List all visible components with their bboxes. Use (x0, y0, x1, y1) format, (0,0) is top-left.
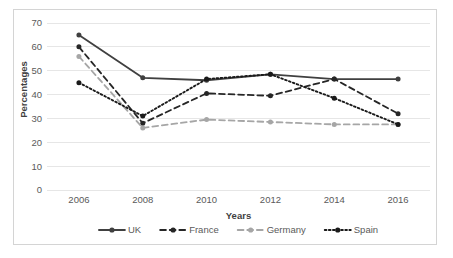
data-point (204, 91, 209, 96)
y-tick-label: 0 (37, 184, 42, 195)
series-uk (76, 32, 400, 82)
data-point (204, 77, 209, 82)
data-point (396, 122, 401, 127)
y-tick-label: 10 (31, 161, 42, 172)
x-tick-label: 2006 (68, 194, 89, 205)
data-point (268, 93, 273, 98)
x-tick-label: 2016 (388, 194, 409, 205)
data-point (268, 72, 273, 77)
legend-item-spain[interactable]: Spain (325, 224, 378, 235)
x-axis-tick-labels: 200620082010201220142016 (68, 194, 408, 205)
y-tick-label: 40 (31, 89, 42, 100)
series-line (79, 74, 398, 124)
x-tick-label: 2008 (132, 194, 153, 205)
y-tick-label: 60 (31, 41, 42, 52)
data-point (332, 77, 337, 82)
x-axis-title: Years (226, 210, 251, 221)
chart-legend: UKFranceGermanySpain (99, 224, 378, 235)
chart-figure: 010203040506070 200620082010201220142016… (0, 0, 453, 258)
legend-marker (109, 227, 114, 232)
x-tick-label: 2012 (260, 194, 281, 205)
data-point (204, 117, 209, 122)
series-line (79, 35, 398, 80)
data-point (396, 111, 401, 116)
series-france (76, 44, 400, 125)
line-chart: 010203040506070 200620082010201220142016… (0, 0, 453, 258)
legend-marker (248, 227, 253, 232)
y-tick-label: 20 (31, 137, 42, 148)
y-tick-label: 50 (31, 65, 42, 76)
x-tick-label: 2010 (196, 194, 217, 205)
legend-label: Germany (267, 224, 306, 235)
legend-marker (335, 227, 340, 232)
y-tick-label: 70 (31, 17, 42, 28)
data-point (140, 125, 145, 130)
legend-marker (171, 227, 176, 232)
data-point (140, 75, 145, 80)
data-point (76, 54, 81, 59)
legend-item-germany[interactable]: Germany (238, 224, 306, 235)
legend-item-france[interactable]: France (160, 224, 219, 235)
legend-item-uk[interactable]: UK (99, 224, 142, 235)
data-point (332, 122, 337, 127)
data-point (396, 77, 401, 82)
gridlines (47, 23, 430, 190)
series-line (79, 47, 398, 123)
data-point (76, 44, 81, 49)
x-tick-label: 2014 (324, 194, 345, 205)
y-tick-label: 30 (31, 113, 42, 124)
data-point (268, 120, 273, 125)
legend-label: France (189, 224, 219, 235)
data-point (76, 80, 81, 85)
data-point (332, 96, 337, 101)
data-point (140, 114, 145, 119)
data-point (76, 32, 81, 37)
y-axis-tick-labels: 010203040506070 (31, 17, 42, 195)
y-axis-title: Percentages (18, 61, 29, 118)
legend-label: Spain (354, 224, 378, 235)
legend-label: UK (128, 224, 142, 235)
